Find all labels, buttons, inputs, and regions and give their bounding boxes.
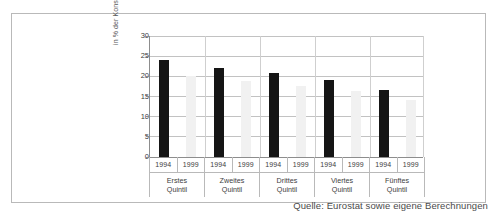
year-label-1994: 1994 xyxy=(205,157,233,172)
year-label-1994: 1994 xyxy=(370,157,398,172)
category-label: ErstesQuintil xyxy=(150,173,204,197)
category-label-line: Quintil xyxy=(277,185,297,195)
group-separator xyxy=(315,36,316,157)
category-label-line: Fünftes xyxy=(385,176,409,186)
category-label: ZweitesQuintil xyxy=(205,173,259,197)
gridline-25 xyxy=(150,56,423,57)
bar-1994-2 xyxy=(214,68,224,157)
category-label-line: Zweites xyxy=(220,176,245,186)
year-label-1999: 1999 xyxy=(343,157,370,172)
group-separator xyxy=(205,36,206,157)
plot-area xyxy=(149,36,424,157)
year-label-1999: 1999 xyxy=(178,157,205,172)
category-label-line: Erstes xyxy=(167,176,187,186)
year-row: 19941999 xyxy=(260,157,314,173)
bar-1999-3 xyxy=(296,86,306,157)
year-label-1999: 1999 xyxy=(288,157,315,172)
bar-1994-5 xyxy=(379,90,389,157)
bar-1999-1 xyxy=(186,76,196,157)
category-label-line: Quintil xyxy=(332,185,352,195)
group-separator xyxy=(370,36,371,157)
year-row: 19941999 xyxy=(205,157,259,173)
bar-1999-4 xyxy=(351,91,361,157)
category-label: ViertesQuintil xyxy=(315,173,369,197)
category-label-line: Viertes xyxy=(331,176,353,186)
category-label-line: Quintil xyxy=(387,185,407,195)
category-label: FünftesQuintil xyxy=(370,173,424,197)
year-label-1994: 1994 xyxy=(150,157,178,172)
bar-1994-1 xyxy=(159,60,169,157)
source-caption: Quelle: Eurostat sowie eigene Berechnung… xyxy=(24,200,494,211)
category-label: DrittesQuintil xyxy=(260,173,314,197)
category-label-line: Quintil xyxy=(167,185,187,195)
year-row: 19941999 xyxy=(150,157,204,173)
year-label-1999: 1999 xyxy=(233,157,260,172)
category-group-3: 19941999DrittesQuintil xyxy=(260,157,315,197)
group-separator xyxy=(260,36,261,157)
bar-1994-3 xyxy=(269,73,279,157)
category-group-2: 19941999ZweitesQuintil xyxy=(205,157,260,197)
category-label-line: Quintil xyxy=(222,185,242,195)
category-group-1: 19941999ErstesQuintil xyxy=(149,157,205,197)
category-label-table: 19941999ErstesQuintil19941999ZweitesQuin… xyxy=(149,157,425,197)
bar-1999-2 xyxy=(241,81,251,157)
year-row: 19941999 xyxy=(315,157,369,173)
category-group-4: 19941999ViertesQuintil xyxy=(315,157,370,197)
year-row: 19941999 xyxy=(370,157,424,173)
bar-1994-4 xyxy=(324,80,334,157)
gridline-30 xyxy=(150,36,423,37)
category-group-5: 19941999FünftesQuintil xyxy=(370,157,425,197)
figure-root: in % der Konsumausgaben insgesamt 051015… xyxy=(0,0,498,217)
figure-frame: in % der Konsumausgaben insgesamt 051015… xyxy=(11,13,486,203)
year-label-1994: 1994 xyxy=(315,157,343,172)
y-axis-tick-column: 051015202530 xyxy=(125,36,149,157)
year-label-1999: 1999 xyxy=(398,157,425,172)
bar-1999-5 xyxy=(406,100,416,157)
y-axis-title: in % der Konsumausgaben insgesamt xyxy=(109,0,123,45)
year-label-1994: 1994 xyxy=(260,157,288,172)
category-label-line: Drittes xyxy=(277,176,298,186)
